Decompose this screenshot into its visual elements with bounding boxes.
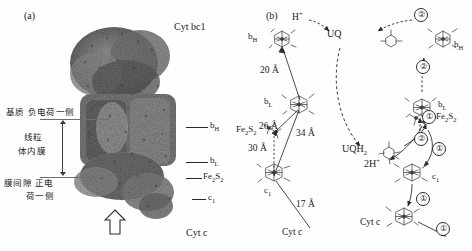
label-a-bL-sub: L: [215, 160, 219, 167]
leader-line-bl: [186, 162, 208, 163]
label-b-cyt-c-right: Cyt c: [360, 218, 380, 228]
label-b-bL-left: bL: [264, 97, 272, 108]
label-b-c1-right-sub: 1: [436, 176, 439, 183]
label-b-bH-left-sub: H: [253, 36, 258, 43]
membrane-arrow-head-down: [60, 172, 66, 176]
label-intermembrane-line1: 膜间隙 正电: [4, 179, 54, 188]
leader-line-fe2s2: [186, 178, 202, 179]
label-intermembrane-line2: 荷一侧: [26, 192, 54, 201]
step-marker-2-middle: ②: [416, 60, 430, 74]
label-a-bL: bL: [210, 156, 218, 167]
distance-30A: 30 Å: [248, 144, 267, 154]
label-b-c1-right: c1: [432, 172, 439, 183]
distance-20A: 20 Å: [260, 66, 279, 76]
label-protons-out-text: 2H: [364, 158, 376, 169]
step-marker-1-fe2s2: ①: [432, 142, 446, 156]
cyt-bc1-structure-image: [52, 16, 202, 231]
membrane-top-line: [40, 119, 110, 120]
label-matrix-side: 基质 负电荷一侧: [6, 108, 74, 117]
label-b-bL-right: bL: [438, 100, 446, 111]
label-b-bH-right-sub: H: [459, 44, 464, 51]
label-inner-membrane-line2: 体内膜: [18, 147, 46, 156]
label-proton-in-text: H: [292, 12, 299, 22]
label-b-Fe2S2-left: Fe2S2: [236, 125, 257, 136]
step-marker-1-c1: ①: [416, 192, 430, 206]
label-b-bL-left-sub: L: [269, 101, 273, 108]
label-a-bH: bH: [210, 121, 219, 132]
step-marker-2-lower: ②: [414, 132, 428, 146]
step-marker-1-cytc: ①: [436, 222, 450, 236]
label-uqh2-text: UQH: [342, 143, 364, 154]
distance-17A: 17 Å: [296, 200, 315, 210]
label-b-bL-right-sub: L: [443, 104, 447, 111]
distance-34A: 34 Å: [296, 129, 315, 139]
label-a-Fe2S2-base: Fe: [203, 171, 212, 181]
panel-a-letter: (a): [24, 10, 35, 21]
label-protons-out-sup: +: [376, 157, 380, 164]
membrane-thickness-arrow: [62, 124, 63, 172]
label-b-Fe2S2-left-sub2: 2: [253, 129, 256, 136]
label-uqh2: UQH2: [342, 144, 367, 157]
label-a-bH-sub: H: [215, 125, 220, 132]
label-proton-in: H+: [292, 11, 303, 23]
label-a-cyt-c: Cyt c: [186, 228, 207, 238]
label-a-c1-sub: 1: [212, 197, 215, 204]
label-a-Fe2S2-sub2: 2: [220, 176, 223, 183]
label-b-Fe2S2-right-base: Fe: [436, 111, 445, 121]
label-b-bH-left: bH: [248, 32, 257, 43]
label-b-Fe2S2-right-sub2: 2: [453, 116, 456, 123]
label-uq: UQ: [327, 29, 341, 39]
figure-root: (a): [0, 0, 472, 251]
proton-entry-open-arrow: [104, 209, 126, 235]
leader-line-bh: [186, 127, 208, 128]
label-b-cyt-c-left: Cyt c: [282, 228, 302, 238]
label-b-c1-left: c1: [264, 186, 271, 197]
distance-26A: 26 Å: [259, 122, 278, 132]
panel-a: (a): [0, 0, 236, 251]
step-marker-2-top: ②: [414, 8, 428, 22]
label-a-Fe2S2: Fe2S2: [203, 172, 224, 183]
panel-b: (b): [236, 0, 472, 251]
label-b-bH-right: bH: [454, 40, 463, 51]
label-b-Fe2S2-left-base: Fe: [236, 124, 245, 134]
label-uqh2-sub: 2: [364, 149, 367, 156]
label-b-Fe2S2-right: Fe2S2: [436, 112, 457, 123]
label-inner-membrane-line1: 线粒: [24, 133, 43, 142]
membrane-arrow-head-up: [60, 120, 66, 124]
label-cyt-bc1: Cyt bc1: [174, 22, 205, 32]
label-b-c1-left-sub: 1: [268, 190, 271, 197]
leader-line-c1: [192, 199, 206, 200]
label-a-c1: c1: [208, 193, 215, 204]
step-marker-1-uqh2: ①: [422, 110, 436, 124]
label-proton-in-sup: +: [299, 10, 303, 17]
label-protons-out: 2H+: [364, 158, 380, 169]
